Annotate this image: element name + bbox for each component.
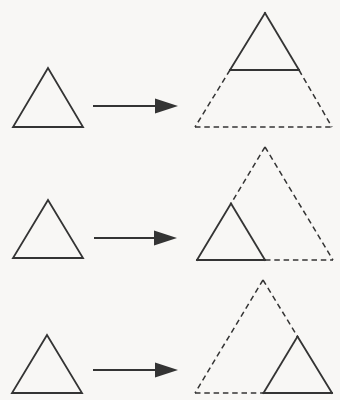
dashed-segment bbox=[263, 280, 298, 337]
dashed-segment bbox=[299, 70, 332, 127]
solid-segment bbox=[197, 204, 231, 261]
solid-segment bbox=[298, 337, 333, 394]
solid-segment bbox=[265, 13, 299, 70]
dashed-segment bbox=[265, 147, 333, 260]
solid-segment bbox=[264, 337, 298, 394]
maps-to-arrow bbox=[93, 363, 178, 378]
triangle-dilation-diagram bbox=[0, 0, 340, 400]
small-triangle bbox=[13, 68, 83, 127]
solid-segment bbox=[230, 13, 265, 70]
row-dilation-center-bottom-left bbox=[13, 147, 333, 260]
result-triangle bbox=[195, 280, 332, 393]
small-triangle bbox=[12, 335, 82, 393]
small-triangle bbox=[13, 200, 83, 258]
result-triangle bbox=[195, 13, 332, 127]
diagram-svg bbox=[0, 0, 340, 400]
dashed-segment bbox=[231, 147, 265, 204]
arrow-head bbox=[155, 99, 178, 114]
solid-segment bbox=[231, 204, 265, 261]
dashed-segment bbox=[195, 70, 230, 127]
arrow-head bbox=[155, 363, 178, 378]
dashed-segment bbox=[195, 280, 263, 393]
maps-to-arrow bbox=[94, 231, 177, 246]
row-dilation-center-bottom-right bbox=[12, 280, 332, 393]
arrow-head bbox=[154, 231, 177, 246]
row-dilation-center-apex bbox=[13, 13, 332, 127]
maps-to-arrow bbox=[93, 99, 178, 114]
result-triangle bbox=[197, 147, 333, 260]
